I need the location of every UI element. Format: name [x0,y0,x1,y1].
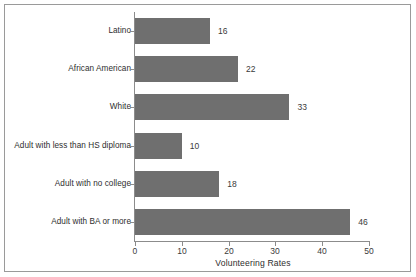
bar-category-label: Adult with no college [55,179,131,189]
bar[interactable] [135,133,182,159]
x-axis-title: Volunteering Rates [135,258,371,268]
bar-category-label: African American [68,64,131,74]
bar[interactable] [135,209,350,235]
bar-value-label: 33 [297,102,307,112]
bar-value-label: 10 [190,141,200,151]
y-axis-tick [130,222,134,223]
bar[interactable] [135,56,238,82]
bar-value-label: 16 [218,26,228,36]
x-axis-line [134,241,370,242]
bar-value-label: 46 [358,217,368,227]
bar-value-label: 22 [246,64,256,74]
x-axis-tick-label: 0 [115,246,155,256]
bar-category-label: Latino [108,26,131,36]
plot-area: Latino16African American22White33Adult w… [0,0,416,277]
x-axis-tick-label: 50 [349,246,389,256]
bar-chart-figure: Latino16African American22White33Adult w… [0,0,416,277]
bar[interactable] [135,94,289,120]
x-axis-tick-label: 30 [255,246,295,256]
bar-category-label: Adult with less than HS diploma [14,141,131,151]
y-axis-tick [130,107,134,108]
y-axis-tick [130,69,134,70]
bar[interactable] [135,18,210,44]
y-axis-line [134,12,135,242]
bar-category-label: White [110,102,131,112]
bar-value-label: 18 [227,179,237,189]
y-axis-tick [130,184,134,185]
x-axis-tick-label: 20 [209,246,249,256]
y-axis-tick [130,31,134,32]
x-axis-tick-label: 40 [302,246,342,256]
x-axis-tick-label: 10 [162,246,202,256]
y-axis-tick [130,146,134,147]
bar-category-label: Adult with BA or more [51,217,131,227]
bar[interactable] [135,171,219,197]
